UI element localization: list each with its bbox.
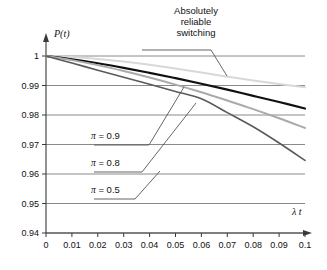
x-tick-label-9: 0.09 [270, 240, 288, 250]
x-tick-label-3: 0.03 [115, 240, 133, 250]
annotation-pi-08-label: π = 0.8 [91, 157, 120, 168]
x-tick-label-4: 0.04 [141, 240, 159, 250]
annotation-line-3: switching [176, 27, 215, 38]
y-axis-title: P(t) [53, 28, 70, 40]
annotation-line-1: Absolutely [174, 5, 218, 16]
x-tick-label-0: 0 [43, 240, 48, 250]
y-tick-label-5: 0.95 [21, 199, 39, 209]
annotation-line-2: reliable [181, 16, 212, 27]
x-tick-label-8: 0.08 [244, 240, 262, 250]
y-tick-label-0: 1 [34, 51, 39, 61]
y-tick-label-2: 0.98 [21, 110, 39, 120]
chart-figure: 10.990.980.970.960.950.94 00.010.020.030… [0, 0, 327, 270]
y-tick-label-1: 0.99 [21, 81, 39, 91]
annotation-pi-09-label: π = 0.9 [91, 130, 120, 141]
x-tick-label-1: 0.01 [63, 240, 81, 250]
x-tick-label-2: 0.02 [89, 240, 107, 250]
y-tick-label-4: 0.96 [21, 169, 39, 179]
x-tick-label-10: 0.1 [299, 240, 312, 250]
x-tick-label-7: 0.07 [219, 240, 237, 250]
annotation-pi-05-label: π = 0.5 [91, 184, 120, 195]
chart-background [0, 0, 327, 270]
x-tick-label-6: 0.06 [193, 240, 211, 250]
x-tick-label-5: 0.05 [167, 240, 185, 250]
x-axis-title: λ t [291, 206, 302, 217]
chart-canvas: 10.990.980.970.960.950.94 00.010.020.030… [0, 0, 327, 270]
y-tick-label-3: 0.97 [21, 140, 39, 150]
y-tick-label-6: 0.94 [21, 228, 39, 238]
